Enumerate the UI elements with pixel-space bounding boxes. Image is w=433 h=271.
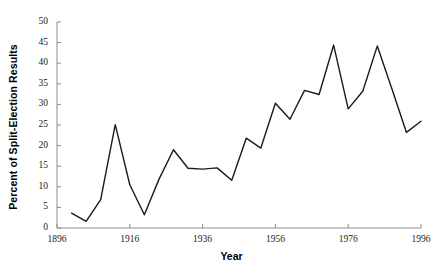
y-tick-label: 10 bbox=[26, 181, 48, 191]
data-series-group bbox=[72, 45, 421, 221]
chart-figure: 05101520253035404550 1896191619361956197… bbox=[0, 0, 433, 271]
y-tick-label: 15 bbox=[26, 160, 48, 170]
y-tick-label: 35 bbox=[26, 78, 48, 88]
y-tick-label: 25 bbox=[26, 119, 48, 129]
axes-group bbox=[57, 22, 421, 228]
y-tick-marks bbox=[57, 22, 61, 228]
x-tick-label: 1976 bbox=[328, 234, 368, 244]
y-tick-label: 0 bbox=[26, 222, 48, 232]
x-axis-title: Year bbox=[0, 250, 433, 262]
x-tick-label: 1956 bbox=[255, 234, 295, 244]
x-tick-marks bbox=[57, 224, 421, 228]
y-tick-label: 45 bbox=[26, 37, 48, 47]
x-tick-label: 1996 bbox=[401, 234, 433, 244]
y-tick-label: 5 bbox=[26, 201, 48, 211]
series-line-split-election-results bbox=[72, 45, 421, 221]
y-tick-label: 20 bbox=[26, 140, 48, 150]
y-tick-label: 40 bbox=[26, 57, 48, 67]
x-tick-label: 1896 bbox=[37, 234, 77, 244]
x-tick-label: 1936 bbox=[183, 234, 223, 244]
y-tick-label: 50 bbox=[26, 16, 48, 26]
y-tick-label: 30 bbox=[26, 98, 48, 108]
line-chart-plot bbox=[0, 0, 433, 271]
x-tick-label: 1916 bbox=[110, 234, 150, 244]
